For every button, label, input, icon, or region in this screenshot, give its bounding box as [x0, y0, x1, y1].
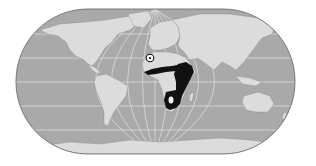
marker-dot-icon — [149, 57, 151, 59]
world-map-svg — [0, 0, 316, 166]
range-gap-kalahari — [169, 97, 174, 104]
record-marker — [146, 54, 154, 62]
